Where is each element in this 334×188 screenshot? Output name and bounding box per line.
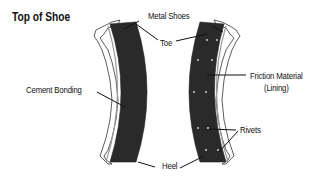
rivet-icon [206,39,208,41]
rivet-icon [193,91,195,93]
label-rivets: Rivets [240,124,261,135]
rivet-icon [197,59,199,61]
rivet-icon [205,149,207,151]
right-brake-shoe [189,20,240,164]
rivet-icon [205,91,207,93]
rivet-icon [211,59,213,61]
label-lining: (Lining) [264,82,289,93]
rivet-icon [216,39,218,41]
label-metal-shoes: Metal Shoes [148,10,189,21]
leader-heel-left [138,162,155,167]
rivet-icon [197,127,199,129]
diagram-title: Top of Shoe [12,10,70,24]
label-toe: Toe [160,37,172,48]
label-heel: Heel [162,160,177,171]
left-brake-shoe [94,20,147,164]
rivet-icon [217,149,219,151]
label-friction-material: Friction Material [250,70,303,81]
rivet-icon [207,127,209,129]
label-cement-bonding: Cement Bonding [26,84,82,95]
